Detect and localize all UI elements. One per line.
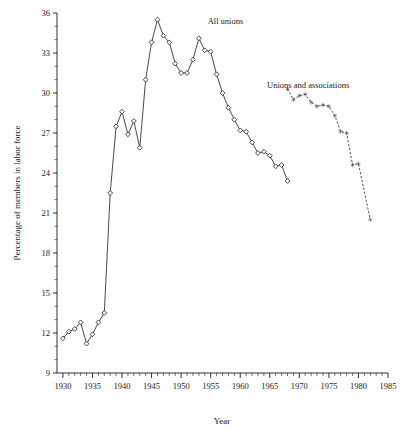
data-point-marker bbox=[267, 153, 272, 158]
data-point-marker bbox=[196, 36, 201, 41]
data-point-marker bbox=[256, 151, 261, 156]
data-point-marker bbox=[137, 145, 142, 150]
data-point-marker bbox=[202, 48, 207, 53]
series-annotation-2: Unions and associations bbox=[267, 80, 349, 90]
data-point-marker bbox=[291, 97, 295, 102]
x-tick-label: 1945 bbox=[143, 381, 160, 391]
y-tick-label: 36 bbox=[42, 8, 51, 18]
x-axis-ticks bbox=[63, 373, 388, 378]
data-point-marker bbox=[244, 129, 249, 134]
data-point-marker bbox=[345, 131, 349, 136]
data-point-marker bbox=[173, 61, 178, 66]
chart-figure: 9121518212427303336 19301935194019451950… bbox=[0, 0, 411, 436]
data-point-marker bbox=[250, 140, 255, 145]
y-tick-label: 9 bbox=[46, 368, 50, 378]
series-annotation-1: All unions bbox=[208, 16, 244, 26]
x-tick-label: 1985 bbox=[380, 381, 397, 391]
data-point-marker bbox=[261, 149, 266, 154]
data-point-marker bbox=[155, 17, 160, 22]
series-lines bbox=[63, 20, 370, 344]
x-axis-title: Year bbox=[214, 416, 231, 426]
x-tick-label: 1965 bbox=[261, 381, 278, 391]
x-tick-label: 1970 bbox=[291, 381, 308, 391]
data-point-marker bbox=[279, 163, 284, 168]
y-tick-label: 18 bbox=[42, 248, 51, 258]
y-tick-label: 15 bbox=[42, 288, 51, 298]
y-tick-label: 24 bbox=[42, 168, 51, 178]
x-tick-label: 1960 bbox=[232, 381, 249, 391]
x-tick-label: 1955 bbox=[202, 381, 219, 391]
data-point-marker bbox=[315, 104, 319, 109]
y-axis-title: Percentage of members in labor force bbox=[12, 125, 22, 260]
y-tick-label: 12 bbox=[42, 328, 51, 338]
y-tick-label: 30 bbox=[42, 88, 51, 98]
data-point-marker bbox=[232, 117, 237, 122]
series-markers bbox=[61, 17, 373, 346]
data-point-marker bbox=[368, 217, 372, 222]
data-point-marker bbox=[108, 191, 113, 196]
series-annotations: All unionsUnions and associations bbox=[208, 16, 350, 90]
x-axis-tick-labels: 1930193519401945195019551960196519701975… bbox=[54, 381, 396, 391]
y-axis-tick-labels: 9121518212427303336 bbox=[42, 8, 51, 378]
data-point-marker bbox=[208, 49, 213, 54]
y-tick-label: 27 bbox=[42, 128, 51, 138]
data-point-marker bbox=[226, 105, 231, 110]
y-tick-label: 21 bbox=[42, 208, 51, 218]
data-point-marker bbox=[102, 311, 107, 316]
data-point-marker bbox=[131, 119, 136, 124]
data-point-marker bbox=[84, 341, 89, 346]
y-tick-label: 33 bbox=[42, 48, 51, 58]
data-point-marker bbox=[220, 91, 225, 96]
data-point-marker bbox=[120, 109, 125, 114]
series-line-1 bbox=[63, 20, 288, 344]
data-point-marker bbox=[191, 57, 196, 62]
data-point-marker bbox=[214, 72, 219, 77]
x-axis-minor-ticks bbox=[69, 373, 382, 376]
data-point-marker bbox=[149, 40, 154, 45]
data-point-marker bbox=[238, 128, 243, 133]
data-point-marker bbox=[273, 164, 278, 169]
x-tick-label: 1980 bbox=[350, 381, 367, 391]
line-chart-svg: 9121518212427303336 19301935194019451950… bbox=[0, 0, 411, 436]
y-axis-ticks bbox=[53, 13, 57, 373]
x-tick-label: 1940 bbox=[114, 381, 131, 391]
data-point-marker bbox=[333, 113, 337, 118]
data-point-marker bbox=[96, 320, 101, 325]
x-tick-label: 1930 bbox=[54, 381, 71, 391]
x-tick-label: 1975 bbox=[320, 381, 337, 391]
x-tick-label: 1935 bbox=[84, 381, 101, 391]
data-point-marker bbox=[179, 71, 184, 76]
data-point-marker bbox=[143, 77, 148, 82]
data-point-marker bbox=[351, 163, 355, 168]
x-tick-label: 1950 bbox=[173, 381, 190, 391]
data-point-marker bbox=[90, 332, 95, 337]
data-point-marker bbox=[285, 179, 290, 184]
data-point-marker bbox=[114, 124, 119, 129]
data-point-marker bbox=[185, 71, 190, 76]
data-point-marker bbox=[126, 132, 131, 137]
